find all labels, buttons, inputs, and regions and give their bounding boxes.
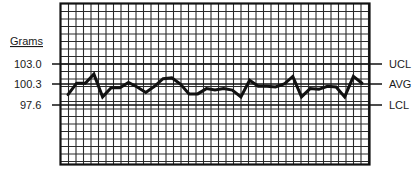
- avg-value-label: 100.3: [14, 78, 42, 90]
- lcl-label: LCL: [389, 99, 409, 111]
- avg-label: AVG: [389, 78, 411, 90]
- lcl-value-label: 97.6: [20, 99, 41, 111]
- ucl-value-label: 103.0: [14, 58, 42, 70]
- ucl-label: UCL: [389, 58, 411, 70]
- control-chart: Grams 103.0 100.3 97.6 UCL AVG LCL: [0, 0, 420, 180]
- y-axis-title: Grams: [10, 35, 44, 47]
